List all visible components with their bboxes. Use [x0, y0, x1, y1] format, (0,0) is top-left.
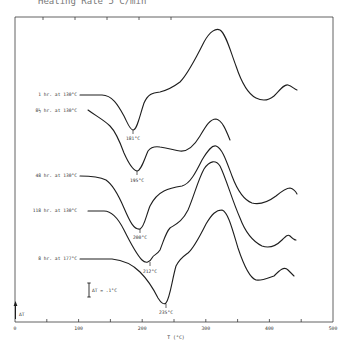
- tick-label-0: 0: [14, 326, 17, 331]
- tick-label-200: 200: [138, 326, 147, 331]
- x-axis-ticks: [47, 319, 301, 322]
- series-label-8half-hr: 8½ hr. at 130°C: [36, 108, 78, 113]
- cut-off-title: Heating Rate 5°C/min: [38, 0, 146, 6]
- series-label-1hr: 1 hr. at 130°C: [38, 92, 77, 97]
- tick-label-100: 100: [74, 326, 83, 331]
- x-axis-title: T (°C): [167, 335, 184, 340]
- tick-label-500: 500: [329, 326, 338, 331]
- x-axis-tick-labels: 0 100 200 300 400 500: [14, 326, 338, 331]
- y-axis-label: ΔT: [19, 312, 25, 317]
- min-label-195: 195°C: [130, 178, 144, 183]
- series-label-48hr: 48 hr. at 130°C: [36, 173, 78, 178]
- min-label-200: 200°C: [133, 235, 147, 240]
- tick-label-400: 400: [265, 326, 274, 331]
- series-label-8hr-177: 8 hr. at 177°C: [38, 256, 77, 261]
- curve-8half-hr-130C: [88, 110, 230, 171]
- delta-t-arrow: [14, 301, 18, 319]
- series-label-118hr: 118 hr. at 130°C: [33, 208, 77, 213]
- min-label-212: 212°C: [143, 269, 157, 274]
- min-label-235: 235°C: [159, 310, 173, 315]
- scale-bar: [87, 283, 90, 297]
- top-ticks: [43, 17, 171, 20]
- dta-chart: Heating Rate 5°C/min 0 100 200 300 400 5…: [0, 0, 349, 349]
- curve-48hr-130C: [80, 146, 297, 229]
- curve-1hr-130C: [80, 29, 297, 130]
- min-label-181: 181°C: [126, 136, 140, 141]
- scale-bar-label: ΔT = .1°C: [92, 288, 117, 293]
- tick-label-300: 300: [201, 326, 210, 331]
